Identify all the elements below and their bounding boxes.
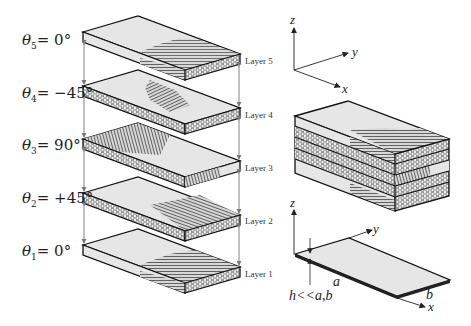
length-label-a: a (333, 274, 340, 289)
theta-label-5: θ5= 0° (22, 31, 71, 51)
svg-text:θ4= −45°: θ4= −45° (22, 84, 93, 104)
svg-text:θ3= 90°: θ3= 90° (22, 136, 81, 156)
ply-layer-5 (83, 16, 240, 80)
width-label-b: b (426, 287, 433, 302)
theta-label-2: θ2= +45° (22, 189, 93, 209)
axis-z-label-top: z (289, 12, 295, 27)
ply-layer-4 (83, 70, 240, 134)
layer-label-5: Layer 5 (245, 56, 273, 66)
thickness-label: h<<a,b (289, 288, 332, 303)
axis-y-label-top: y (350, 44, 358, 59)
layer-label-1: Layer 1 (245, 269, 273, 279)
axis-y-label-plate: y (371, 221, 379, 236)
theta-label-3: θ3= 90° (22, 136, 81, 156)
svg-text:θ5= 0°: θ5= 0° (22, 31, 71, 51)
theta-label-1: θ1= 0° (22, 242, 71, 262)
layer-label-4: Layer 4 (245, 110, 273, 120)
ply-layer-2 (83, 177, 240, 241)
laminate-diagram: Layer 5 Layer 4 Layer 3 Layer 2 Layer 1 … (0, 0, 471, 326)
svg-text:θ2= +45°: θ2= +45° (22, 189, 93, 209)
ply-layer-1 (83, 229, 240, 293)
coordinate-axes-top (294, 28, 348, 87)
layer-label-3: Layer 3 (245, 163, 273, 173)
axis-z-label-plate: z (289, 195, 295, 210)
layer-label-2: Layer 2 (245, 216, 273, 226)
svg-text:θ1= 0°: θ1= 0° (22, 242, 71, 262)
ply-layer-3 (83, 123, 240, 187)
axis-x-label-top: x (341, 81, 348, 96)
theta-label-4: θ4= −45° (22, 84, 93, 104)
assembled-laminate (295, 101, 449, 211)
